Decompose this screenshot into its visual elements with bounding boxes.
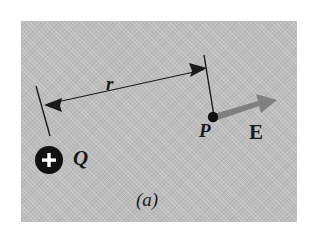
extension-line-left — [36, 86, 50, 136]
figure-root: Q P E r (a) — [0, 0, 314, 239]
field-vector-arrow — [214, 94, 277, 121]
dimension-arrowhead-left — [44, 98, 62, 112]
field-vector-label: E — [249, 122, 263, 143]
plus-sign-icon-vertical — [47, 153, 50, 167]
charge-label: Q — [73, 148, 88, 169]
distance-label: r — [106, 74, 113, 93]
figure-caption: (a) — [136, 190, 158, 209]
dimension-line-r — [48, 70, 203, 104]
extension-line-right — [204, 55, 214, 116]
dimension-arrowhead-right — [189, 63, 207, 77]
point-label: P — [199, 121, 211, 140]
